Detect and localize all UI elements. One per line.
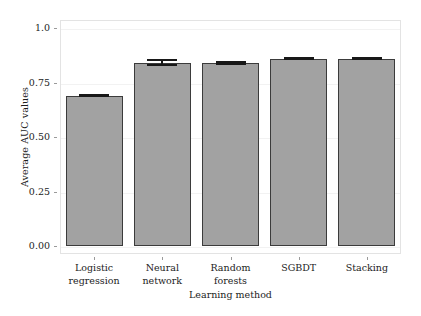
bar-1	[134, 63, 191, 246]
y-tick-label: 0.75	[16, 78, 50, 88]
y-tick-label: 0.00	[16, 241, 50, 251]
y-tick-mark	[54, 83, 57, 84]
x-axis-title: Learning method	[60, 289, 401, 301]
bar-3	[270, 59, 327, 246]
x-tick-label-1: Neural network	[128, 262, 196, 287]
x-tick-label-0: Logistic regression	[60, 262, 128, 287]
bar-0	[66, 96, 123, 246]
y-tick-mark	[54, 192, 57, 193]
error-bar-cap-2-lower	[216, 63, 246, 65]
bar-4	[338, 59, 395, 246]
bar-2	[202, 63, 259, 246]
figure: Average AUC values 0.000.250.500.751.0 L…	[0, 0, 421, 316]
gridline-y-4	[61, 29, 400, 30]
error-bar-cap-4-lower	[352, 58, 382, 60]
gridline-y-0	[61, 247, 400, 248]
x-tick-mark-0	[94, 257, 95, 260]
x-tick-mark-2	[231, 257, 232, 260]
x-tick-label-2: Random forests	[196, 262, 264, 287]
y-tick-label: 0.25	[16, 187, 50, 197]
error-bar-cap-3-lower	[284, 58, 314, 60]
x-tick-mark-4	[367, 257, 368, 260]
y-tick-label: 0.50	[16, 132, 50, 142]
y-tick-label: 1.0	[16, 23, 50, 33]
y-tick-mark	[54, 28, 57, 29]
x-tick-label-4: Stacking	[333, 262, 401, 275]
error-bar-cap-1-upper	[147, 59, 177, 61]
x-tick-mark-1	[162, 257, 163, 260]
x-tick-label-3: SGBDT	[265, 262, 333, 275]
error-bar-cap-0-lower	[79, 95, 109, 97]
y-tick-mark	[54, 137, 57, 138]
x-tick-mark-3	[299, 257, 300, 260]
error-bar-cap-1-lower	[147, 64, 177, 66]
y-tick-mark	[54, 246, 57, 247]
